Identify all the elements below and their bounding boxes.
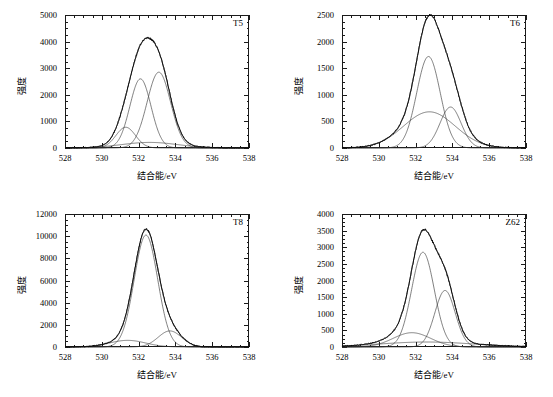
plot-area: T8 (65, 214, 249, 347)
spectra-curves (65, 15, 249, 148)
xps-spectra-figure: T501000200030004000500052853053253453653… (0, 0, 553, 397)
x-tick-label: 538 (243, 353, 256, 362)
panel-t8: T802000400060008000100001200052853053253… (0, 199, 276, 397)
component-curve-3 (342, 112, 526, 148)
y-tick-label: 1000 (277, 310, 334, 319)
y-tick-label: 10000 (0, 232, 57, 241)
y-tick-label: 8000 (0, 254, 57, 263)
plot-area: Z62 (342, 214, 526, 347)
envelope-fit-curve (65, 229, 249, 347)
x-major-tick-top (249, 15, 250, 20)
x-major-tick-top (526, 214, 527, 219)
y-tick-label: 0 (277, 144, 334, 153)
panel-label: T6 (510, 18, 520, 28)
x-major-tick (249, 342, 250, 347)
y-tick-label: 1000 (0, 117, 57, 126)
x-tick-label: 532 (409, 353, 422, 362)
y-tick-label: 4000 (0, 298, 57, 307)
y-tick-label: 2000 (277, 37, 334, 46)
y-tick-label: 500 (277, 326, 334, 335)
x-tick-label: 532 (409, 154, 422, 163)
x-tick-label: 534 (446, 154, 459, 163)
y-tick-label: 1000 (277, 91, 334, 100)
y-tick-label: 500 (277, 117, 334, 126)
y-tick-label: 3000 (277, 243, 334, 252)
y-tick-label: 1500 (277, 64, 334, 73)
spectra-curves (342, 214, 526, 347)
panel-label: T8 (233, 217, 243, 227)
component-curve-2 (65, 331, 249, 347)
x-tick-label: 536 (206, 353, 219, 362)
x-axis-title: 结合能/eV (414, 368, 454, 381)
y-tick-label: 2500 (277, 260, 334, 269)
spectra-curves (342, 15, 526, 148)
plot-area: T5 (65, 15, 249, 148)
x-tick-label: 530 (95, 353, 108, 362)
y-tick-label: 0 (277, 343, 334, 352)
x-tick-label: 536 (206, 154, 219, 163)
x-major-tick-top (526, 15, 527, 20)
x-tick-label: 534 (446, 353, 459, 362)
component-curve-3 (65, 72, 249, 148)
y-tick-label: 0 (0, 343, 57, 352)
x-major-tick (526, 143, 527, 148)
x-axis-title: 结合能/eV (137, 368, 177, 381)
y-tick-label: 6000 (0, 276, 57, 285)
y-tick-label: 2000 (277, 276, 334, 285)
y-tick-label: 5000 (0, 11, 57, 20)
component-curve-1 (342, 252, 526, 347)
x-axis-title: 结合能/eV (414, 169, 454, 182)
y-tick-label: 2000 (0, 321, 57, 330)
y-tick-label: 2000 (0, 91, 57, 100)
panel-z62: Z620500100015002000250030003500400052853… (277, 199, 553, 397)
component-curve-2 (65, 79, 249, 148)
component-curve-2 (342, 107, 526, 148)
x-tick-label: 528 (59, 353, 72, 362)
y-axis-title: 强度 (292, 269, 305, 293)
x-tick-label: 538 (243, 154, 256, 163)
x-tick-label: 532 (132, 154, 145, 163)
y-tick-label: 0 (0, 144, 57, 153)
component-curve-1 (342, 57, 526, 149)
component-curve-1 (65, 127, 249, 148)
y-tick-label: 4000 (277, 210, 334, 219)
y-tick-label: 1500 (277, 293, 334, 302)
x-tick-label: 536 (483, 353, 496, 362)
x-tick-label: 532 (132, 353, 145, 362)
x-tick-label: 528 (336, 154, 349, 163)
x-tick-label: 528 (59, 154, 72, 163)
y-tick-label: 3500 (277, 226, 334, 235)
x-major-tick-top (249, 214, 250, 219)
y-tick-label: 4000 (0, 37, 57, 46)
envelope-fit-curve (65, 38, 249, 148)
y-tick-label: 12000 (0, 210, 57, 219)
x-tick-label: 538 (520, 353, 533, 362)
x-tick-label: 536 (483, 154, 496, 163)
y-axis-title: 强度 (15, 269, 28, 293)
raw-data-curve (342, 14, 526, 148)
panel-t6: T605001000150020002500528530532534536538… (277, 0, 553, 198)
x-tick-label: 528 (336, 353, 349, 362)
x-tick-label: 534 (169, 353, 182, 362)
plot-area: T6 (342, 15, 526, 148)
component-curve-2 (342, 290, 526, 347)
x-tick-label: 534 (169, 154, 182, 163)
x-tick-label: 530 (372, 353, 385, 362)
y-axis-title: 强度 (292, 70, 305, 94)
y-axis-title: 强度 (15, 70, 28, 94)
panel-label: T5 (233, 18, 243, 28)
raw-data-curve (65, 37, 249, 148)
x-tick-label: 538 (520, 154, 533, 163)
envelope-fit-curve (342, 15, 526, 148)
x-major-tick (249, 143, 250, 148)
panel-t5: T501000200030004000500052853053253453653… (0, 0, 276, 198)
x-tick-label: 530 (372, 154, 385, 163)
y-tick-label: 2500 (277, 11, 334, 20)
component-curve-1 (65, 235, 249, 347)
spectra-curves (65, 214, 249, 347)
x-tick-label: 530 (95, 154, 108, 163)
y-tick-label: 3000 (0, 64, 57, 73)
raw-data-curve (65, 229, 249, 348)
panel-label: Z62 (506, 217, 521, 227)
x-axis-title: 结合能/eV (137, 169, 177, 182)
